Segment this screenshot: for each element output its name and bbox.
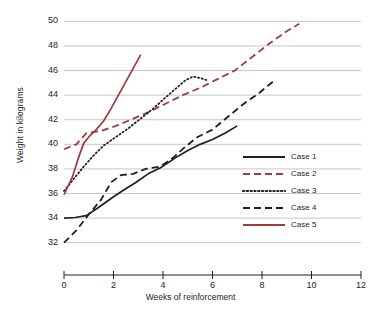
x-tick-label: 0 — [54, 280, 74, 290]
series-line-case-2 — [64, 24, 299, 149]
y-tick-label: 50 — [32, 15, 58, 25]
x-tick-label: 12 — [351, 280, 371, 290]
legend-label-case-2: Case 2 — [291, 169, 316, 178]
x-tick-label: 6 — [203, 280, 223, 290]
y-tick-label: 44 — [32, 89, 58, 99]
legend-label-case-3: Case 3 — [291, 186, 316, 195]
y-tick-label: 46 — [32, 65, 58, 75]
y-tick-label: 36 — [32, 188, 58, 198]
y-tick-label: 32 — [32, 237, 58, 247]
y-tick-label: 34 — [32, 212, 58, 222]
x-tick-label: 4 — [153, 280, 173, 290]
x-tick-label: 8 — [252, 280, 272, 290]
x-tick-label: 2 — [104, 280, 124, 290]
y-tick-label: 42 — [32, 114, 58, 124]
series-group — [64, 24, 299, 243]
series-line-case-1 — [64, 126, 237, 218]
gridlines-group — [64, 21, 361, 242]
y-tick-label: 38 — [32, 163, 58, 173]
legend-swatches-group — [243, 157, 285, 225]
x-tick-label: 10 — [302, 280, 322, 290]
x-axis-group — [64, 271, 361, 279]
y-tick-label: 40 — [32, 138, 58, 148]
x-axis-title: Weeks of reinforcement — [0, 292, 381, 302]
y-axis-title: Weight in kilograms — [15, 65, 25, 185]
legend-label-case-1: Case 1 — [291, 152, 316, 161]
series-line-case-5 — [64, 55, 141, 195]
weight-vs-weeks-line-chart: 32343638404244464850 024681012 Case 1Cas… — [0, 0, 381, 318]
y-tick-label: 48 — [32, 40, 58, 50]
legend-label-case-4: Case 4 — [291, 203, 316, 212]
legend-label-case-5: Case 5 — [291, 220, 316, 229]
